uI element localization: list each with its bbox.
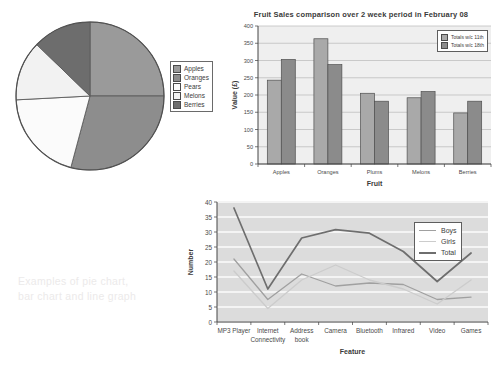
bar-legend-item-2: Totals w/c 18th: [441, 41, 484, 49]
bar-apples-series2: [281, 59, 295, 164]
bar-y-tick-label: 100: [244, 127, 253, 133]
line-x-tick-label: Bluetooth: [356, 327, 383, 334]
caption-line-2: bar chart and line graph: [18, 289, 183, 304]
bar-y-tick-label: 0: [250, 161, 253, 167]
line-x-tick-label: Connectivity: [250, 336, 286, 344]
bar-berries-series1: [454, 113, 468, 164]
bar-legend-swatch-icon: [441, 42, 448, 49]
line-y-tick-label: 15: [205, 274, 213, 281]
pie-legend-swatch-icon: [173, 74, 181, 82]
line-legend-label: Total: [441, 247, 456, 258]
pie-legend-item-oranges: Oranges: [173, 73, 209, 82]
line-y-tick-label: 10: [205, 289, 213, 296]
line-x-tick-label: book: [295, 336, 310, 343]
screenshot-canvas: · · · ApplesOrangesPearsMelonsBerries Fr…: [0, 0, 494, 366]
bar-oranges-series1: [314, 39, 328, 164]
line-legend-item-total: Total: [419, 247, 457, 258]
line-x-tick-label: Infrared: [392, 327, 414, 334]
line-y-tick-label: 25: [205, 244, 213, 251]
bar-melons-series1: [407, 98, 421, 164]
bar-y-tick-label: 50: [247, 144, 253, 150]
line-x-tick-label: Video: [429, 327, 446, 334]
line-x-tick-label: MP3 Player: [217, 327, 251, 335]
bar-legend-label: Totals w/c 18th: [451, 41, 484, 49]
pie-legend-swatch-icon: [173, 92, 181, 100]
line-x-axis-label: Feature: [340, 348, 365, 355]
line-legend-line-icon: [419, 241, 436, 242]
line-y-tick-label: 35: [205, 214, 213, 221]
line-legend-item-girls: Girls: [419, 236, 457, 247]
pie-legend-label: Oranges: [184, 73, 209, 82]
bar-legend-swatch-icon: [441, 34, 448, 41]
pie-legend-label: Melons: [184, 91, 205, 100]
top-cropped-text: · · ·: [0, 0, 494, 7]
line-x-tick-label: Internet: [257, 327, 279, 334]
line-chart: 0510152025303540MP3 PlayerInternetConnec…: [180, 190, 494, 366]
pie-chart-legend: ApplesOrangesPearsMelonsBerries: [170, 61, 213, 112]
bar-chart-legend: Totals w/c 11thTotals w/c 18th: [437, 30, 488, 52]
line-x-tick-label: Camera: [324, 327, 347, 334]
bar-x-tick-label: Berries: [459, 169, 477, 175]
bar-plums-series2: [375, 101, 389, 164]
pie-legend-label: Berries: [184, 100, 205, 109]
line-legend-line-icon: [419, 230, 436, 231]
bar-legend-label: Totals w/c 11th: [451, 33, 484, 41]
bar-apples-series1: [267, 80, 281, 164]
bar-y-tick-label: 200: [244, 92, 253, 98]
line-x-tick-label: Address: [290, 327, 313, 334]
bar-plums-series1: [361, 93, 375, 164]
pie-legend-item-apples: Apples: [173, 64, 209, 73]
line-y-tick-label: 40: [205, 199, 213, 206]
line-legend-line-icon: [419, 252, 436, 254]
pie-legend-swatch-icon: [173, 101, 181, 109]
bar-y-tick-label: 400: [244, 23, 253, 29]
caption-line-1: Examples of pie chart,: [18, 274, 183, 289]
line-legend-label: Boys: [441, 225, 457, 236]
pie-legend-swatch-icon: [173, 65, 181, 73]
line-y-tick-label: 30: [205, 229, 213, 236]
line-y-tick-label: 20: [205, 259, 213, 266]
bar-y-tick-label: 350: [244, 40, 253, 46]
pie-legend-item-melons: Melons: [173, 91, 209, 100]
bar-y-tick-label: 300: [244, 58, 253, 64]
bar-melons-series2: [421, 92, 435, 164]
figure-caption: Examples of pie chart, bar chart and lin…: [18, 274, 183, 304]
bar-y-axis-label: Value (£): [231, 81, 239, 110]
line-y-axis-label: Number: [187, 249, 194, 276]
pie-chart: ApplesOrangesPearsMelonsBerries: [14, 20, 224, 172]
bar-x-tick-label: Oranges: [317, 169, 339, 175]
line-legend-item-boys: Boys: [419, 225, 457, 236]
bar-oranges-series2: [328, 65, 342, 164]
pie-legend-swatch-icon: [173, 83, 181, 91]
bar-x-tick-label: Apples: [273, 169, 290, 175]
line-legend-label: Girls: [441, 236, 455, 247]
bar-x-tick-label: Melons: [412, 169, 430, 175]
bar-x-tick-label: Plums: [367, 169, 383, 175]
line-chart-legend: BoysGirlsTotal: [414, 222, 462, 261]
line-y-tick-label: 5: [208, 304, 212, 311]
bar-legend-item-1: Totals w/c 11th: [441, 33, 484, 41]
pie-legend-item-berries: Berries: [173, 100, 209, 109]
pie-legend-item-pears: Pears: [173, 82, 209, 91]
line-x-tick-label: Games: [461, 327, 482, 334]
bar-y-tick-label: 150: [244, 109, 253, 115]
line-y-tick-label: 0: [208, 319, 212, 326]
bar-berries-series2: [468, 101, 482, 164]
pie-chart-svg: [14, 20, 166, 172]
pie-legend-label: Apples: [184, 64, 204, 73]
line-chart-svg: 0510152025303540MP3 PlayerInternetConnec…: [180, 190, 494, 366]
bar-x-axis-label: Fruit: [367, 180, 383, 187]
bar-chart: Fruit Sales comparison over 2 week perio…: [228, 10, 494, 190]
bar-y-tick-label: 250: [244, 75, 253, 81]
pie-legend-label: Pears: [184, 82, 201, 91]
pie-slice-apples: [90, 22, 164, 96]
